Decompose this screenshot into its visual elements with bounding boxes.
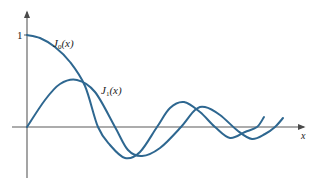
series-j1-curve (27, 80, 283, 156)
j1-label-arg: (x) (109, 84, 122, 97)
series-j0-curve (27, 35, 264, 158)
y-tick-label: 1 (17, 29, 23, 41)
series-j1-label: J1(x) (101, 84, 122, 98)
x-axis-label: x (300, 130, 306, 141)
bessel-chart: 1 x J0(x) J1(x) (0, 0, 318, 180)
j0-label-arg: (x) (61, 37, 74, 50)
series-j0-label: J0(x) (53, 37, 74, 51)
